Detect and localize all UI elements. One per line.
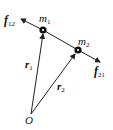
connecting-line (43, 30, 78, 50)
label-m2: m2 (78, 35, 90, 49)
label-m1: m1 (39, 12, 51, 26)
label-f21: f21 (94, 64, 106, 79)
label-f12: f12 (4, 13, 16, 28)
label-r2: r2 (57, 80, 65, 94)
mass-m1-point (39, 26, 46, 33)
position-vector-r1 (31, 34, 43, 114)
label-origin: O (25, 114, 33, 126)
position-vector-r2 (31, 54, 75, 114)
label-r1: r1 (25, 58, 33, 72)
force-vector-f21 (78, 50, 100, 62)
mass-m2-point (74, 46, 81, 53)
two-body-diagram: f12 m1 m2 f21 r1 r2 O (0, 0, 113, 130)
